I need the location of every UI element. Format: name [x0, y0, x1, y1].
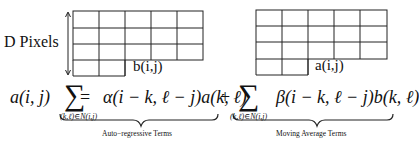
summation-subscript-1: (k,ℓ)∈N(i,j)	[60, 112, 97, 121]
summation-subscript-2: (k,ℓ)∈N(i,j)	[230, 112, 267, 121]
equation-lhs: a(i, j)	[10, 87, 50, 108]
moving-average-caption: Moving Average Terms	[276, 129, 346, 138]
d-pixels-label: D Pixels	[4, 33, 59, 51]
moving-average-term: β(i − k, ℓ − j)b(k, ℓ)	[276, 87, 419, 108]
autoregressive-caption: Auto−regressive Terms	[102, 129, 172, 138]
a-ij-label: a(i,j)	[315, 57, 344, 74]
summation-symbol-2: ∑	[238, 80, 259, 110]
b-ij-label: b(i,j)	[133, 58, 163, 75]
plus-sign: +	[220, 87, 230, 108]
d-pixels-arrow	[66, 12, 71, 75]
summation-symbol-1: ∑	[64, 80, 85, 110]
